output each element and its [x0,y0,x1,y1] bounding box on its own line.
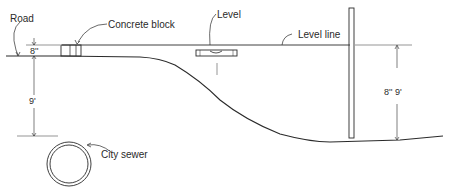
block-height-dimension: 8'' [30,47,38,56]
diagram-drawing [0,0,450,188]
measuring-pole [349,8,354,138]
concrete-block-leader [78,24,107,42]
road-leader [14,22,20,55]
level-line-label: Level line [298,30,340,40]
level-leader [210,14,216,45]
level-label: Level [217,10,241,20]
level-line-leader [282,34,292,45]
concrete-block-label: Concrete block [108,20,175,30]
level-line-to-ground-dimension: 8'' 9' [384,88,402,97]
city-sewer-pipe [47,142,91,186]
city-sewer-label: City sewer [101,150,148,160]
concrete-block [61,45,81,56]
road-to-sewer-dimension: 9' [29,97,36,106]
ground-profile [6,56,443,142]
road-label: Road [10,14,34,24]
sewer-grade-diagram: Road Concrete block Level Level line Cit… [0,0,450,188]
